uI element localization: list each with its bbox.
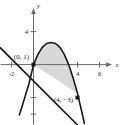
point-label-a: (0, 1) [14,53,30,61]
y-axis-arrow [31,8,36,14]
graph-figure: -2 4 6 4 x y (0, 1) (4, −3) [0,0,122,125]
point-label-b: (4, −3) [54,96,74,104]
point-marker-a [32,63,36,67]
x-axis-arrow [106,62,112,67]
x-tick-label-6: 6 [98,70,102,77]
x-tick-label-4: 4 [76,70,80,77]
x-tick-label-neg2: -2 [9,70,14,77]
y-tick-label-4: 4 [25,28,29,35]
plot-svg: -2 4 6 4 x y (0, 1) (4, −3) [0,0,122,125]
y-axis-label: y [36,2,41,10]
point-marker-b [76,96,80,100]
x-axis-label: x [114,61,119,69]
